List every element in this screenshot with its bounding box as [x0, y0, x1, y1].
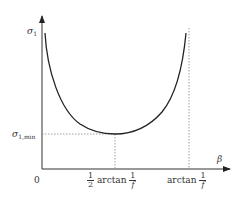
x-tick-half-arctan: 12 arctan 1f: [87, 172, 136, 189]
y-axis-label: σ1: [27, 27, 37, 37]
x-tick-arctan: arctan 1f: [167, 172, 206, 189]
sigma-min-label: σ1,min: [12, 130, 35, 140]
sigma-curve: [45, 33, 186, 134]
origin-label: 0: [34, 176, 40, 185]
x-axis-label: β: [217, 155, 222, 164]
